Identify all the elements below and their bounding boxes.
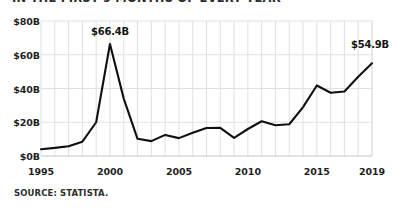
- x-tick-label: 2000: [97, 166, 123, 177]
- x-tick-label: 2019: [359, 166, 385, 177]
- x-tick-label: 2005: [166, 166, 192, 177]
- x-axis-labels: 199520002005201020152019: [0, 0, 398, 210]
- x-tick-label: 1995: [28, 166, 54, 177]
- source-note: SOURCE: STATISTA.: [14, 188, 108, 198]
- x-tick-label: 2015: [304, 166, 330, 177]
- annotation-peak-value: $66.4B: [91, 26, 129, 37]
- x-tick-label: 2010: [235, 166, 261, 177]
- annotation-end-value: $54.9B: [351, 39, 389, 50]
